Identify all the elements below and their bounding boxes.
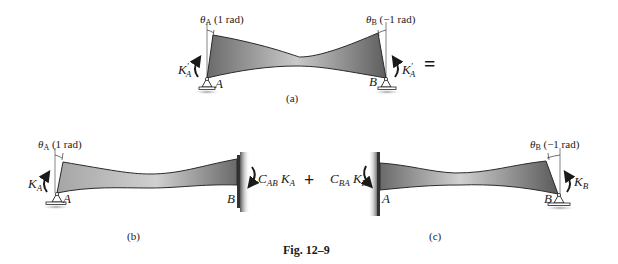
- carryover-label-b: CAB KA: [258, 171, 296, 188]
- moment-label-right: K′A: [401, 61, 416, 79]
- joint-label-b-b: B: [227, 191, 235, 206]
- beam-c: [380, 161, 558, 194]
- joint-label-b-a: A: [62, 191, 71, 206]
- panel-a: θA (1 rad) θB (−1 rad) K′A K′A A B (a): [177, 13, 416, 105]
- moment-label-b-left: KA: [27, 176, 43, 193]
- figure-canvas: θA (1 rad) θB (−1 rad) K′A K′A A B (a) =…: [0, 0, 618, 264]
- joint-label-c-a: A: [381, 191, 390, 206]
- carryover-label-c: CBA KB: [330, 171, 368, 188]
- panel-c-label: (c): [429, 230, 442, 243]
- panel-b-label: (b): [127, 230, 140, 243]
- theta-a-label: θA (1 rad): [200, 13, 244, 27]
- moment-arrow-c-right: [567, 175, 570, 192]
- panel-b: θA (1 rad) KA CAB KA A B (b): [27, 138, 296, 243]
- moment-label-left: K′A: [177, 61, 192, 79]
- moment-label-c-right: KB: [573, 174, 589, 191]
- angle-arc-left: [207, 30, 214, 33]
- moment-arrow-right: [395, 60, 398, 77]
- moment-arrow-b-left: [44, 175, 47, 192]
- moment-arrow-b-right: [251, 167, 255, 184]
- panel-a-label: (a): [286, 92, 299, 105]
- theta-b-label: θB (−1 rad): [366, 13, 416, 27]
- angle-arc-right: [378, 30, 386, 33]
- theta-b-label-c: θB (−1 rad): [530, 138, 580, 152]
- beam-b: [57, 159, 237, 193]
- joint-label-a: A: [214, 76, 223, 91]
- plus-sign: +: [304, 170, 314, 190]
- beam-a: [207, 33, 386, 78]
- angle-arc-b: [55, 155, 62, 158]
- joint-label-c-b: B: [544, 191, 552, 206]
- equals-sign: =: [424, 53, 435, 75]
- figure-caption: Fig. 12–9: [283, 243, 330, 257]
- joint-label-b: B: [369, 74, 377, 89]
- theta-a-label-b: θA (1 rad): [38, 138, 82, 152]
- moment-arrow-left: [195, 60, 198, 77]
- panel-c: θB (−1 rad) CBA KB KB A B (c): [330, 138, 589, 243]
